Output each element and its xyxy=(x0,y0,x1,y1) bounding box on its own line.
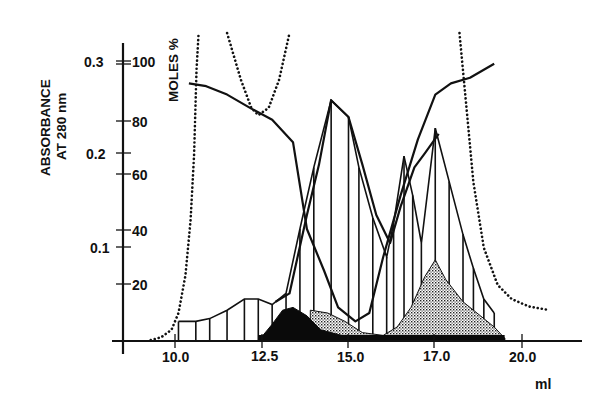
tick-x-20: 20.0 xyxy=(509,349,536,365)
tick-moles-60: 60 xyxy=(132,167,148,183)
tick-x-15: 15.0 xyxy=(337,349,364,365)
tick-moles-40: 40 xyxy=(132,223,148,239)
tick-moles-80: 80 xyxy=(132,114,148,130)
tick-abs-0.3: 0.3 xyxy=(84,54,104,70)
tick-x-17: 17.0 xyxy=(423,348,450,364)
right-axis-title: MOLES % xyxy=(166,38,181,102)
tick-abs-0.2: 0.2 xyxy=(86,146,106,162)
chromatogram-chart: ABSORBANCE AT 280 nm MOLES % ml 100 80 6… xyxy=(0,0,603,411)
y-axis: 100 80 60 40 20 0.3 0.2 0.1 xyxy=(84,43,156,354)
left-axis-title: ABSORBANCE AT 280 nm xyxy=(38,79,69,176)
tick-moles-20: 20 xyxy=(132,277,148,293)
svg-text:AT 280 nm: AT 280 nm xyxy=(54,93,69,160)
tick-x-12.5: 12.5 xyxy=(251,348,278,364)
tick-moles-100: 100 xyxy=(132,54,156,70)
tick-abs-0.1: 0.1 xyxy=(90,240,110,256)
x-axis-title: ml xyxy=(535,376,551,392)
tick-x-10: 10.0 xyxy=(162,349,189,365)
svg-text:ABSORBANCE: ABSORBANCE xyxy=(38,79,53,176)
